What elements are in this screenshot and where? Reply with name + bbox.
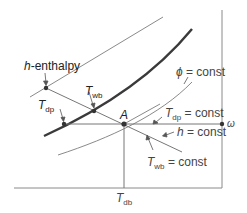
arrowhead-h-const [163,133,168,138]
label-tdp-const: Tdp = const [165,106,224,122]
wetbulb-point [92,109,96,113]
state-point-a [121,121,126,126]
label-point-a: A [119,108,128,122]
label-tdp: Tdp [38,98,55,114]
label-phi-const: ϕ = const [176,65,226,79]
arrowhead-twb [91,103,95,108]
arrowhead-twb-const [146,135,150,140]
label-twb-const: Twb = const [147,155,208,171]
enthalpy-point [44,86,48,90]
arrow-h-const [166,132,174,135]
label-twb: Twb [85,84,103,100]
enthalpy-line-upper [30,17,163,97]
label-omega: ω [227,118,235,129]
arrowhead-tdp [61,117,65,122]
psychrometric-diagram: h-enthalpy Twb Tdp A ϕ = const Tdp = con… [0,0,247,213]
arrowhead-h-enthalpy [44,81,49,86]
arrow-twb-const [148,138,153,150]
dewpoint-point [62,122,66,126]
label-h-const: h = const [177,125,227,139]
label-tdb: Tdb [116,191,133,207]
label-h-enthalpy: h-enthalpy [24,59,80,73]
